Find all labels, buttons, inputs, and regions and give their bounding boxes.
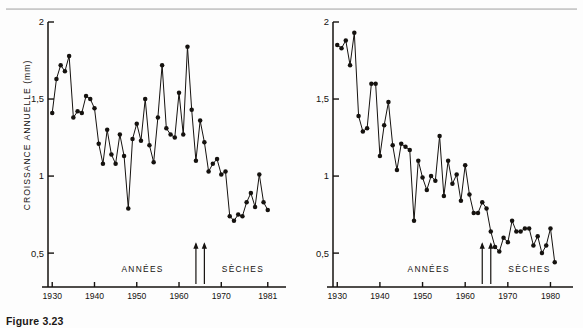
data-point: [54, 77, 59, 82]
data-point: [344, 38, 349, 43]
x-axis-tick-label: 1940: [370, 291, 389, 301]
y-axis-tick-label: 0,5: [316, 248, 329, 259]
x-axis-tick-label: 1980: [541, 291, 560, 301]
figure-page: 21,510,5193019401950196019701981ANNÉESSÈ…: [0, 0, 583, 328]
data-point: [548, 226, 553, 231]
page-top-rule: [6, 8, 577, 10]
data-point: [348, 63, 353, 68]
data-point: [177, 91, 182, 96]
dry-years-label: ANNÉES: [121, 264, 163, 274]
data-point: [476, 211, 481, 216]
data-point: [420, 175, 425, 180]
data-point: [497, 249, 502, 254]
data-point: [378, 154, 383, 159]
data-point: [194, 158, 199, 163]
data-point: [335, 43, 340, 48]
data-point: [416, 158, 421, 163]
data-point: [361, 129, 366, 134]
x-axis-tick-label: 1930: [327, 291, 347, 301]
data-point: [202, 140, 207, 145]
line-chart-left: 21,510,5193019401950196019701981ANNÉESSÈ…: [0, 12, 291, 312]
dry-years-arrowhead: [202, 242, 207, 249]
data-point: [151, 160, 156, 165]
data-point: [219, 172, 224, 177]
data-point: [253, 205, 258, 210]
data-point: [215, 157, 220, 162]
data-point: [113, 161, 118, 166]
data-point: [211, 161, 216, 166]
data-point: [339, 46, 344, 51]
dry-years-arrowhead: [193, 242, 198, 249]
data-point: [206, 169, 211, 174]
y-axis-tick-label: 1: [324, 170, 329, 181]
data-point: [261, 200, 266, 205]
data-point: [227, 214, 232, 219]
y-axis-tick-label: 1,5: [316, 93, 329, 104]
data-point: [236, 212, 241, 217]
y-axis-tick-label: 1: [39, 170, 44, 181]
data-point: [429, 174, 434, 179]
data-point: [130, 137, 135, 142]
data-line: [337, 33, 554, 263]
data-point: [412, 219, 417, 224]
line-chart-right: 21,510,5193019401950196019701980ANNÉESSÈ…: [291, 12, 583, 312]
data-point: [92, 106, 97, 111]
figure-area: 21,510,5193019401950196019701981ANNÉESSÈ…: [0, 12, 583, 312]
data-point: [373, 81, 378, 86]
data-point: [63, 69, 68, 74]
data-point: [403, 145, 408, 150]
data-point: [369, 81, 374, 86]
dry-years-label: SÈCHES: [222, 264, 264, 274]
data-point: [433, 178, 438, 183]
data-point: [489, 229, 494, 234]
data-point: [514, 229, 519, 234]
data-point: [139, 138, 144, 143]
data-point: [446, 158, 451, 163]
data-point: [352, 31, 357, 35]
data-point: [156, 115, 161, 120]
data-point: [67, 54, 72, 59]
data-point: [506, 240, 511, 245]
data-point: [223, 169, 228, 174]
data-point: [126, 206, 131, 211]
data-point: [450, 182, 455, 187]
x-axis-tick-label: 1960: [169, 291, 188, 301]
data-point: [356, 114, 361, 119]
data-point: [535, 234, 540, 239]
data-point: [160, 63, 165, 68]
figure-caption: Figure 3.23: [6, 315, 64, 328]
data-point: [244, 200, 249, 205]
data-point: [459, 198, 464, 203]
data-line: [52, 47, 268, 221]
data-point: [88, 97, 93, 102]
data-point: [442, 194, 447, 199]
data-point: [510, 219, 514, 224]
data-point: [101, 161, 106, 166]
y-axis-tick-label: 2: [324, 16, 329, 27]
data-point: [50, 111, 55, 116]
data-point: [80, 111, 85, 116]
data-point: [390, 143, 395, 148]
data-point: [484, 206, 489, 211]
data-point: [109, 152, 114, 157]
data-point: [408, 148, 413, 153]
data-point: [399, 141, 404, 146]
data-point: [467, 192, 472, 197]
x-axis-tick-label: 1970: [498, 291, 517, 301]
data-point: [425, 188, 430, 193]
data-point: [143, 97, 148, 102]
x-axis-tick-label: 1930: [42, 291, 62, 301]
x-axis-tick-label: 1970: [212, 291, 231, 301]
data-point: [232, 219, 237, 224]
y-axis-tick-label: 0,5: [31, 248, 44, 259]
data-point: [105, 128, 110, 133]
data-point: [122, 154, 127, 159]
dry-years-arrowhead: [480, 242, 485, 249]
data-point: [189, 108, 194, 113]
data-point: [365, 126, 370, 131]
data-point: [185, 44, 190, 49]
data-point: [386, 100, 391, 105]
y-axis-tick-label: 2: [39, 16, 44, 27]
x-axis-tick-label: 1950: [413, 291, 432, 301]
data-point: [531, 243, 536, 248]
